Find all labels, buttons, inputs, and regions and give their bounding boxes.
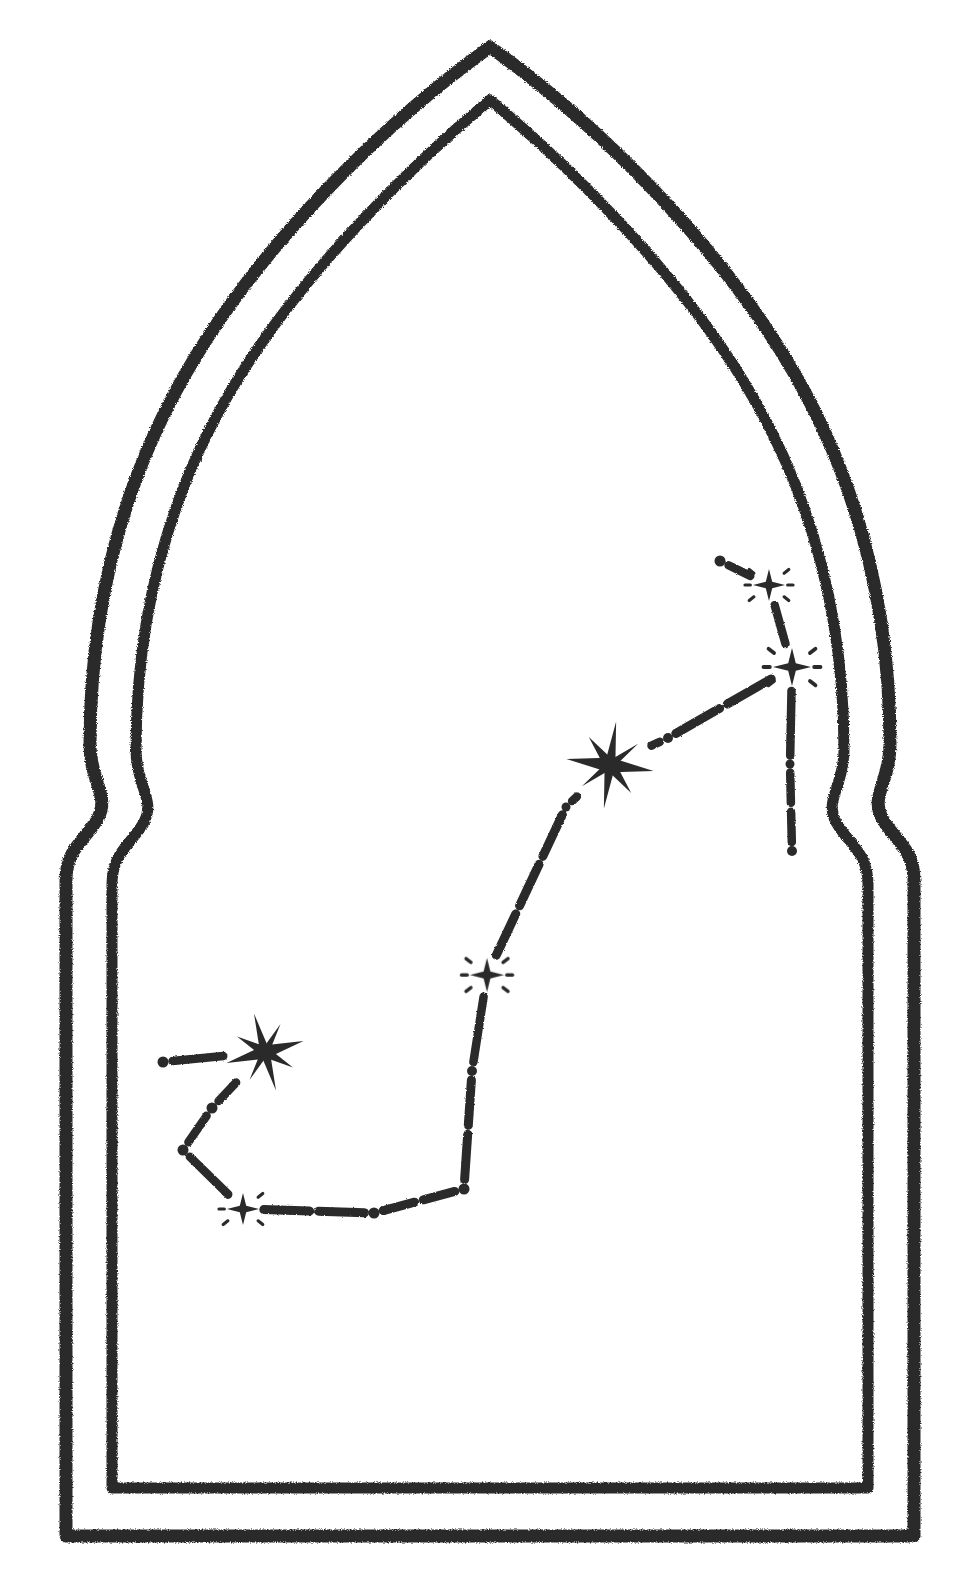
constellation-arch-drawing [0,0,963,1581]
star-dot-n6 [663,733,673,743]
star-dot-n11 [459,1184,470,1195]
edge-n16-n17 [173,1056,224,1061]
illustration-canvas: Constellation in an Ogee Arch Constellat… [0,0,963,1581]
star-dot-n1 [715,556,726,567]
star-sparkle-n3 [762,646,823,688]
star-dot-n15 [207,1103,218,1114]
edge-n6-n7 [652,742,660,746]
star-dot-n17 [158,1057,169,1068]
star-dot-n14 [178,1145,189,1156]
star-sparkle-n9 [460,956,514,994]
star-dot-n5 [787,846,797,856]
edge-n7-n8 [572,797,577,802]
star-dot-n8 [562,803,571,812]
edge-n3-n4 [790,691,791,756]
star-dot-n10 [467,1066,477,1076]
star-dot-n12 [369,1208,380,1219]
star-dot-n4 [786,760,795,769]
star-sparkle-n2 [743,567,794,602]
